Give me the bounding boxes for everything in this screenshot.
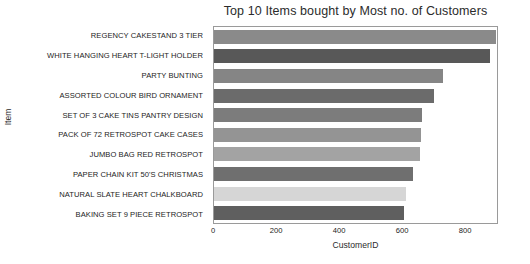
y-tick-label: PARTY BUNTING [10, 66, 208, 86]
plot-area [213, 26, 498, 224]
y-axis-tick-labels: REGENCY CAKESTAND 3 TIER WHITE HANGING H… [10, 26, 208, 224]
bar-row [214, 203, 497, 223]
x-tick-label: 600 [396, 226, 409, 235]
bar [214, 187, 406, 201]
bar-row [214, 164, 497, 184]
bar [214, 89, 434, 103]
bar-series [214, 27, 497, 223]
x-tick-label: 200 [270, 226, 283, 235]
y-tick-label: REGENCY CAKESTAND 3 TIER [10, 26, 208, 46]
bar-row [214, 47, 497, 67]
y-tick-label: PACK OF 72 RETROSPOT CAKE CASES [10, 125, 208, 145]
bar-row [214, 105, 497, 125]
y-tick-label: SET OF 3 CAKE TINS PANTRY DESIGN [10, 105, 208, 125]
bar [214, 147, 420, 161]
bar [214, 128, 421, 142]
y-tick-label: BAKING SET 9 PIECE RETROSPOT [10, 204, 208, 224]
bar [214, 30, 496, 44]
y-tick-label: NATURAL SLATE HEART CHALKBOARD [10, 184, 208, 204]
x-tick-label: 800 [459, 226, 472, 235]
x-axis-label: CustomerID [213, 240, 498, 250]
bar-chart-figure: Top 10 Items bought by Most no. of Custo… [0, 0, 530, 264]
bar-row [214, 184, 497, 204]
bar-row [214, 66, 497, 86]
bar [214, 69, 443, 83]
x-tick-label: 0 [211, 226, 215, 235]
bar [214, 206, 404, 220]
x-tick-label: 400 [333, 226, 346, 235]
chart-title: Top 10 Items bought by Most no. of Custo… [213, 4, 498, 18]
bar [214, 49, 490, 63]
bar [214, 167, 413, 181]
bar [214, 108, 422, 122]
bar-row [214, 27, 497, 47]
bar-row [214, 145, 497, 165]
y-tick-label: PAPER CHAIN KIT 50'S CHRISTMAS [10, 165, 208, 185]
bar-row [214, 125, 497, 145]
y-tick-label: WHITE HANGING HEART T-LIGHT HOLDER [10, 46, 208, 66]
x-axis-tick-labels: 0200400600800 [213, 226, 498, 238]
y-tick-label: JUMBO BAG RED RETROSPOT [10, 145, 208, 165]
y-tick-label: ASSORTED COLOUR BIRD ORNAMENT [10, 85, 208, 105]
bar-row [214, 86, 497, 106]
